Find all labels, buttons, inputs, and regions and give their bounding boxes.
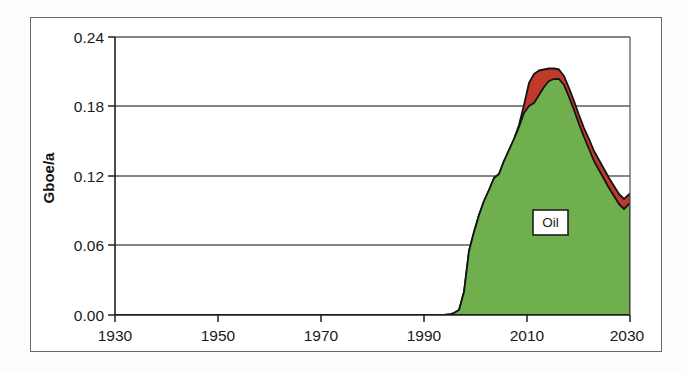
x-tick-label-1990: 1990	[407, 327, 442, 344]
x-tick-marks	[115, 315, 630, 322]
x-tick-label-1950: 1950	[201, 327, 236, 344]
figure-root: 0.24 0.18 0.12 0.06 0.00 1930 1950 1970 …	[0, 0, 686, 373]
y-tick-label-0-18: 0.18	[74, 98, 104, 115]
y-tick-marks	[108, 37, 115, 315]
y-tick-label-0-00: 0.00	[74, 307, 105, 324]
y-tick-label-0-24: 0.24	[74, 29, 105, 46]
x-tick-label-1970: 1970	[304, 327, 339, 344]
y-axis-title: Gboe/a	[40, 152, 57, 204]
series-label-oil: Oil	[533, 210, 568, 235]
chart-canvas: 0.24 0.18 0.12 0.06 0.00 1930 1950 1970 …	[0, 0, 686, 373]
x-tick-labels: 1930 1950 1970 1990 2010 2030	[98, 327, 645, 344]
y-tick-label-0-06: 0.06	[74, 237, 104, 254]
y-tick-label-0-12: 0.12	[74, 168, 104, 185]
x-tick-label-2030: 2030	[610, 327, 645, 344]
x-tick-label-1930: 1930	[98, 327, 133, 344]
series-label-oil-text: Oil	[542, 215, 559, 230]
y-tick-labels: 0.24 0.18 0.12 0.06 0.00	[74, 29, 105, 324]
x-tick-label-2010: 2010	[510, 327, 545, 344]
